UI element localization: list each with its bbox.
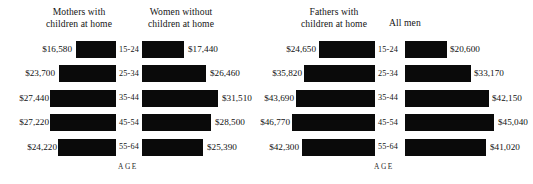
bar-women-without [142, 90, 218, 107]
bar-mothers [76, 41, 116, 58]
value-label-mothers: $27,220 [0, 116, 49, 128]
series-header-women-without-line2: children at home [131, 18, 231, 30]
series-header-women-without-line1: Women without [131, 6, 231, 18]
value-label-all-men: $42,150 [492, 92, 533, 104]
age-label: 35-44 [376, 92, 400, 104]
value-label-fathers: $42,300 [241, 141, 299, 153]
table-row: $23,700 25-34 $26,460 [0, 63, 258, 87]
bar-mothers [58, 139, 116, 156]
age-label: 45-54 [117, 117, 141, 129]
series-header-all-men: All men [389, 17, 489, 29]
value-label-mothers: $27,440 [0, 92, 49, 104]
axis-title-age-right: AGE [334, 162, 434, 171]
value-label-all-men: $41,020 [490, 141, 533, 153]
value-label-fathers: $35,820 [244, 67, 302, 79]
table-row: $46,770 45-54 $45,040 [258, 112, 515, 136]
value-label-women-without: $17,440 [188, 43, 256, 55]
age-label: 15-24 [376, 44, 400, 56]
value-label-all-men: $45,040 [498, 116, 533, 128]
value-label-all-men: $20,600 [450, 43, 518, 55]
series-header-all-men-line1: All men [389, 17, 489, 29]
series-header-fathers-line1: Fathers with [286, 6, 382, 18]
bar-all-men [405, 41, 447, 58]
panel-women: Mothers with children at home Women with… [0, 0, 258, 184]
age-label: 25-34 [376, 68, 400, 80]
bar-women-without [142, 114, 211, 131]
value-label-all-men: $33,170 [474, 67, 533, 79]
age-label: 55-64 [376, 141, 400, 153]
bar-mothers [50, 90, 116, 107]
age-label: 45-54 [376, 117, 400, 129]
table-row: $16,580 15-24 $17,440 [0, 39, 258, 63]
bar-fathers [304, 65, 375, 82]
table-row: $24,650 15-24 $20,600 [258, 39, 515, 63]
panel-men-headers: Fathers with children at home All men [258, 6, 515, 34]
value-label-mothers: $23,700 [0, 67, 55, 79]
bar-women-without [142, 41, 184, 58]
bar-all-men [405, 65, 471, 82]
series-header-mothers: Mothers with children at home [31, 6, 127, 29]
table-row: $42,300 55-64 $41,020 [258, 137, 515, 161]
bar-fathers [292, 114, 375, 131]
panel-men: Fathers with children at home All men $2… [258, 0, 515, 184]
age-label: 35-44 [117, 92, 141, 104]
table-row: $27,220 45-54 $28,500 [0, 112, 258, 136]
bar-fathers [302, 139, 375, 156]
value-label-mothers: $16,580 [4, 43, 72, 55]
table-row: $43,690 35-44 $42,150 [258, 88, 515, 112]
bar-mothers [59, 65, 116, 82]
table-row: $35,820 25-34 $33,170 [258, 63, 515, 87]
table-row: $27,440 35-44 $31,510 [0, 88, 258, 112]
bar-fathers [296, 90, 375, 107]
bar-all-men [405, 114, 494, 131]
axis-title-age-left: AGE [78, 162, 178, 171]
series-header-mothers-line1: Mothers with [31, 6, 127, 18]
panel-women-rows: $16,580 15-24 $17,440 $23,700 25-34 $26,… [0, 39, 258, 161]
bar-all-men [405, 139, 486, 156]
value-label-mothers: $24,220 [0, 141, 57, 153]
bar-women-without [142, 139, 203, 156]
bar-women-without [142, 65, 206, 82]
bar-fathers [319, 41, 375, 58]
value-label-fathers: $46,770 [232, 116, 290, 128]
age-label: 55-64 [117, 141, 141, 153]
series-header-fathers: Fathers with children at home [286, 6, 382, 29]
series-header-mothers-line2: children at home [31, 18, 127, 30]
value-label-fathers: $24,650 [256, 43, 316, 55]
bar-mothers [50, 114, 116, 131]
bar-all-men [405, 90, 489, 107]
age-label: 25-34 [117, 68, 141, 80]
age-label: 15-24 [117, 44, 141, 56]
panel-women-headers: Mothers with children at home Women with… [0, 6, 258, 34]
value-label-fathers: $43,690 [236, 92, 294, 104]
panel-men-rows: $24,650 15-24 $20,600 $35,820 25-34 $33,… [258, 39, 515, 161]
series-header-fathers-line2: children at home [286, 18, 382, 30]
table-row: $24,220 55-64 $25,390 [0, 137, 258, 161]
series-header-women-without: Women without children at home [131, 6, 231, 29]
